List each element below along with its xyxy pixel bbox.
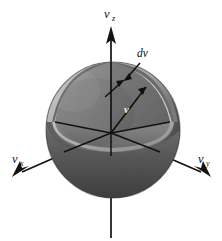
annotation-label-dv: dv <box>137 47 149 59</box>
axis-label-vz-subscript: z <box>111 14 116 23</box>
axis-label-vy: v <box>198 152 204 166</box>
sphere-body <box>46 54 180 198</box>
axis-label-vx: v <box>12 152 18 166</box>
axis-label-vx-subscript: x <box>19 159 24 168</box>
velocity-space-sphere-figure: v z v x v y dv v <box>0 0 222 241</box>
figure-canvas: v z v x v y dv v <box>0 0 222 241</box>
axis-label-vy-subscript: y <box>205 159 210 168</box>
axis-label-vz-group: v z <box>104 7 116 23</box>
annotation-label-v: v <box>124 103 129 115</box>
axis-label-vz: v <box>104 7 110 21</box>
